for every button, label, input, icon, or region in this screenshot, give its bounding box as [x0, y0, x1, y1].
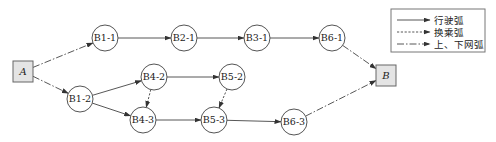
arc-access-b6-1-to-b — [343, 45, 376, 68]
terminal-label: B — [381, 70, 389, 81]
node-label: B5-3 — [203, 114, 225, 125]
node-label: B4-2 — [143, 71, 165, 82]
node-b6-3: B6-3 — [281, 109, 307, 135]
node-b5-3: B5-3 — [201, 107, 227, 133]
terminal-b: B — [376, 65, 396, 86]
node-b5-2: B5-2 — [219, 64, 245, 90]
node-label: B1-2 — [69, 93, 91, 104]
node-label: B6-1 — [321, 32, 343, 43]
node-label: B4-3 — [132, 114, 154, 125]
node-b4-2: B4-2 — [141, 64, 167, 90]
legend-label-access: 上、下网弧 — [434, 39, 484, 50]
node-b2-1: B2-1 — [171, 25, 197, 51]
legend-label-transfer: 换乘弧 — [434, 27, 464, 38]
node-b3-1: B3-1 — [244, 25, 270, 51]
node-label: B1-1 — [94, 32, 116, 43]
transit-network-diagram: ABB1-1B2-1B3-1B6-1B1-2B4-2B5-2B4-3B5-3B6… — [0, 0, 496, 142]
legend-label-drive: 行驶弧 — [434, 15, 464, 26]
node-label: B3-1 — [246, 32, 268, 43]
arc-access-b6-3-to-b — [306, 81, 376, 117]
node-b1-2: B1-2 — [67, 86, 93, 112]
arc-access-a-to-b1-1 — [33, 43, 93, 68]
node-label: B2-1 — [173, 32, 195, 43]
terminal-a: A — [13, 61, 33, 82]
arc-access-a-to-b1-2 — [33, 76, 68, 93]
arc-drive-b1-2-to-b4-3 — [92, 103, 130, 116]
arc-drive-b1-2-to-b4-2 — [93, 81, 142, 96]
terminal-label: A — [18, 66, 26, 77]
node-b1-1: B1-1 — [92, 25, 118, 51]
arc-transfer-b5-2-to-b5-3 — [219, 89, 227, 108]
node-label: B5-2 — [221, 71, 243, 82]
node-b4-3: B4-3 — [130, 107, 156, 133]
node-b6-1: B6-1 — [319, 25, 345, 51]
nodes-layer: ABB1-1B2-1B3-1B6-1B1-2B4-2B5-2B4-3B5-3B6… — [13, 25, 396, 135]
arc-drive-b5-3-to-b6-3 — [227, 120, 281, 121]
arc-transfer-b4-2-to-b4-3 — [146, 90, 151, 108]
node-label: B6-3 — [283, 116, 305, 127]
legend: 行驶弧 换乘弧 上、下网弧 — [391, 9, 485, 52]
